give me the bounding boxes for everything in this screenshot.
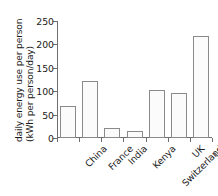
y-axis-title-line-1: daily energy use per person	[14, 19, 24, 142]
y-axis-title: daily energy use per person (kWh per per…	[0, 0, 36, 145]
y-tick-label: 0	[48, 133, 54, 144]
bar-chart: daily energy use per person (kWh per per…	[0, 0, 218, 196]
x-label-kenya: Kenya	[150, 143, 178, 171]
bar-france	[82, 81, 98, 138]
bar-india	[104, 128, 120, 138]
plot-area: 050100150200250	[57, 21, 212, 138]
y-tick-label: 150	[36, 62, 54, 73]
x-label-china: China	[83, 143, 109, 169]
x-axis-labels: ChinaFranceIndiaKenyaSwitzerlandUKUS	[57, 138, 218, 196]
y-tick-label: 250	[36, 16, 54, 27]
y-tick-label: 50	[42, 109, 54, 120]
y-axis-line	[57, 21, 58, 138]
bar-switzerland	[149, 90, 165, 138]
y-tick-label: 200	[36, 39, 54, 50]
bar-us	[193, 36, 209, 138]
y-tick-label: 100	[36, 86, 54, 97]
y-axis-title-line-2: (kWh per person/day)	[25, 46, 35, 142]
bar-china	[60, 106, 76, 138]
bar-uk	[171, 93, 187, 138]
bar-kenya	[127, 131, 143, 138]
